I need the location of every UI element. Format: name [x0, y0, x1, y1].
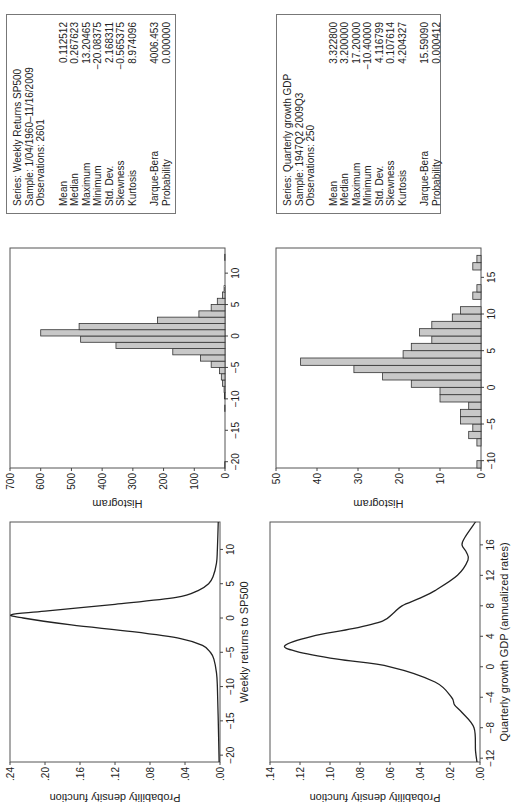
x-tick-label: −10 — [225, 678, 236, 695]
histogram-bar — [469, 431, 481, 438]
histogram-bar — [41, 330, 225, 336]
stats-row-prob: Probability0.000000 — [161, 22, 173, 206]
stats-row-jb: Jarque-Bera15.59090 — [419, 22, 431, 206]
figure-rotated: .00.04.08.12.16.20.24−20−15−10−50510Week… — [0, 0, 516, 810]
y-axis-label: Histogram — [92, 498, 142, 510]
stats-sample: Sample: 1/04/1960–11/16/2009 — [24, 22, 36, 206]
y-tick-label: 20 — [394, 473, 405, 485]
histogram-bar — [420, 329, 482, 336]
histogram-bar — [199, 311, 225, 317]
stats-row: Maximum13.20465 — [81, 22, 93, 206]
y-axis-label: Histogram — [353, 498, 403, 510]
x-tick-label: 0 — [485, 664, 496, 670]
x-tick-label: −4 — [485, 691, 496, 703]
stats-row: Median0.267623 — [69, 22, 81, 206]
histogram-bar — [473, 263, 481, 270]
y-tick-label: .10 — [325, 767, 336, 781]
histogram-bar — [403, 351, 481, 358]
y-tick-label: 0 — [476, 473, 487, 479]
y-tick-label: 400 — [97, 473, 108, 490]
y-tick-label: .20 — [40, 767, 51, 781]
histogram-bar — [223, 292, 225, 298]
stats-observations: Observations: 250 — [305, 22, 317, 206]
gdp-histogram-chart: 01020304050−10−5051015Histogram — [258, 240, 516, 510]
histogram-bar — [383, 373, 481, 380]
histogram-bar — [477, 461, 481, 468]
y-tick-label: .24 — [5, 767, 16, 781]
stats-row-jb: Jarque-Bera4006.453 — [149, 22, 161, 206]
plot-frame — [270, 522, 480, 762]
plot-frame — [10, 248, 225, 468]
histogram-bar — [432, 321, 481, 328]
x-tick-label: 0 — [230, 333, 241, 339]
histogram-bar — [79, 323, 225, 329]
histogram-bar — [81, 336, 225, 342]
stats-row: Skewness0.107614 — [385, 22, 397, 206]
x-tick-label: −5 — [225, 646, 236, 658]
stats-observations: Observations: 2601 — [35, 22, 47, 206]
y-tick-label: 100 — [189, 473, 200, 490]
x-tick-label: −12 — [485, 749, 496, 766]
y-tick-label: 700 — [5, 473, 16, 490]
y-tick-label: .12 — [110, 767, 121, 781]
stats-row: Minimum−20.08375 — [92, 22, 104, 206]
y-tick-label: 50 — [271, 473, 282, 485]
sp500-stats-box: Series: Weekly Returns SP500 Sample: 1/0… — [6, 14, 176, 214]
sp500-histogram-chart: 0100200300400500600700−20−15−10−50510His… — [0, 240, 258, 510]
x-tick-label: −5 — [230, 361, 241, 373]
histogram-bar — [473, 292, 481, 299]
stats-row: Mean3.322800 — [328, 22, 340, 206]
histogram-bar — [224, 393, 225, 399]
x-tick-label: 8 — [485, 603, 496, 609]
stats-row: Mean0.112512 — [58, 22, 70, 206]
y-tick-label: .04 — [415, 767, 426, 781]
x-tick-label: −5 — [486, 418, 497, 430]
histogram-bar — [469, 402, 481, 409]
x-tick-label: 4 — [485, 633, 496, 639]
x-tick-label: 15 — [486, 271, 497, 283]
histogram-bar — [440, 395, 481, 402]
histogram-bar — [473, 424, 481, 431]
y-axis-label: Probability density function — [50, 792, 181, 804]
x-axis-label: Quarterly growth GDP (annualized rates) — [498, 542, 510, 741]
stats-row-prob: Probability0.000412 — [431, 22, 443, 206]
stats-row: Kurtosis4.204327 — [397, 22, 409, 206]
histogram-bar — [173, 349, 225, 355]
y-tick-label: 40 — [312, 473, 323, 485]
x-tick-label: 5 — [225, 580, 236, 586]
x-tick-label: 10 — [486, 308, 497, 320]
histogram-bar — [224, 386, 225, 392]
x-tick-label: 10 — [225, 543, 236, 555]
histogram-bar — [116, 342, 225, 348]
x-tick-label: 5 — [486, 347, 497, 353]
y-tick-label: 600 — [35, 473, 46, 490]
y-tick-label: .08 — [145, 767, 156, 781]
y-tick-label: .14 — [265, 767, 276, 781]
stats-row: Std. Dev.2.168311 — [104, 22, 116, 206]
histogram-bar — [217, 298, 225, 304]
x-tick-label: 16 — [485, 539, 496, 551]
histogram-bar — [411, 343, 481, 350]
histogram-bar — [440, 387, 481, 394]
stats-row: Minimum−10.40000 — [362, 22, 374, 206]
y-tick-label: .16 — [75, 767, 86, 781]
y-axis-label: Probability density function — [310, 792, 441, 804]
y-tick-label: 10 — [435, 473, 446, 485]
y-tick-label: 0 — [220, 473, 231, 479]
histogram-bar — [157, 317, 225, 323]
histogram-bar — [477, 255, 481, 262]
y-tick-label: .12 — [295, 767, 306, 781]
stats-row: Std. Dev.4.116799 — [374, 22, 386, 206]
gdp-density-chart: .00.02.04.06.08.10.12.14−12−8−40481216Qu… — [258, 510, 516, 810]
gdp-stats-box: Series: Quarterly growth GDP Sample: 194… — [276, 14, 441, 214]
x-tick-label: 0 — [225, 615, 236, 621]
y-tick-label: 500 — [66, 473, 77, 490]
histogram-bar — [219, 367, 225, 373]
histogram-bar — [354, 365, 481, 372]
sp500-density-chart: .00.04.08.12.16.20.24−20−15−10−50510Week… — [0, 510, 258, 810]
histogram-bar — [411, 380, 481, 387]
y-tick-label: 300 — [127, 473, 138, 490]
histogram-bar — [221, 374, 225, 380]
stats-row: Kurtosis8.974096 — [127, 22, 139, 206]
x-axis-label: Weekly returns to SP500 — [238, 581, 250, 702]
